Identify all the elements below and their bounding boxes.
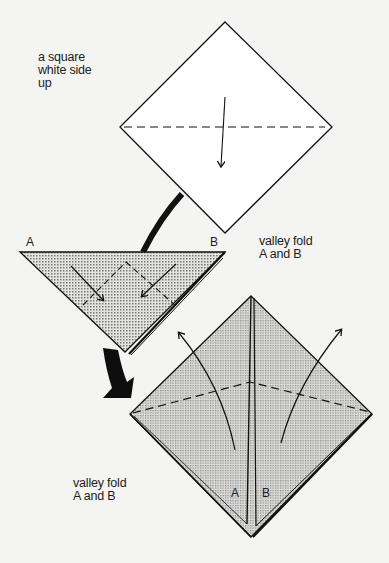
transition-arrow-1-icon [143, 194, 182, 252]
step1-caption: a square white side up [38, 51, 92, 90]
step3-diamond [130, 296, 372, 537]
step2-caption: valley fold A and B [259, 235, 312, 261]
corner-label-b: B [210, 235, 218, 249]
shaded-triangle [20, 252, 225, 352]
caption-line: A and B [73, 490, 126, 503]
caption-line: up [38, 77, 92, 90]
flap-label-a: A [231, 486, 239, 500]
caption-line: A and B [259, 248, 312, 261]
transition-arrow-2-icon [103, 348, 134, 398]
flap-label-b: B [262, 486, 270, 500]
corner-label-a: A [26, 235, 34, 249]
step3-caption: valley fold A and B [73, 477, 126, 503]
step1-square [120, 22, 332, 233]
step2-triangle [20, 252, 225, 355]
